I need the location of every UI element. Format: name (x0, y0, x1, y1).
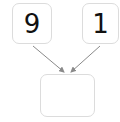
arrow-right-icon (71, 46, 100, 72)
arrow-left-icon (33, 46, 64, 72)
whole-box-answer[interactable] (40, 74, 95, 117)
